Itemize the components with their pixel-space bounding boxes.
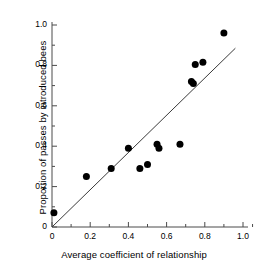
data-point: [136, 165, 143, 172]
data-point: [192, 61, 199, 68]
data-points: [50, 30, 227, 217]
data-point: [108, 165, 115, 172]
scatter-plot-figure: 00.20.40.60.81.000.20.40.60.81.0 Average…: [0, 0, 268, 275]
data-point: [220, 30, 227, 37]
trend-line: [52, 48, 235, 227]
data-point: [144, 161, 151, 168]
axis-ticks: [52, 25, 253, 227]
data-point: [125, 145, 132, 152]
data-point: [199, 59, 206, 66]
x-tick-label: 1.0: [232, 231, 254, 241]
y-axis-label: Proportion of passes by introduced bees: [37, 0, 48, 262]
data-point: [155, 145, 162, 152]
regression-line: [52, 48, 235, 227]
data-point: [176, 141, 183, 148]
data-point: [190, 80, 197, 87]
data-point: [50, 209, 57, 216]
data-point: [83, 173, 90, 180]
x-tick-label: 0.4: [117, 231, 139, 241]
x-tick-label: 0.8: [194, 231, 216, 241]
axes: [52, 22, 248, 227]
x-tick-label: 0.6: [156, 231, 178, 241]
x-tick-label: 0.2: [79, 231, 101, 241]
